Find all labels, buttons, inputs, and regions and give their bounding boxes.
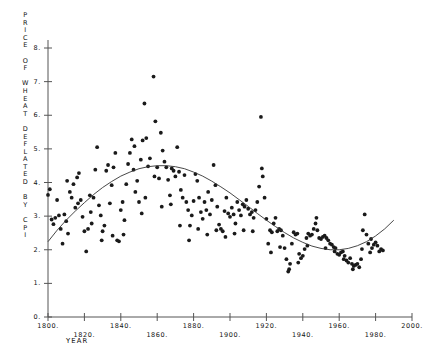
x-axis-tick-label: 1920. [253, 322, 279, 330]
data-point [143, 196, 147, 200]
data-point [295, 232, 299, 236]
data-point [126, 162, 130, 166]
data-point [201, 217, 205, 221]
data-point [62, 213, 66, 217]
data-point [172, 169, 176, 173]
data-point [139, 158, 143, 162]
data-point [122, 233, 126, 237]
y-axis-tick-label: 1. [27, 279, 41, 287]
data-point [130, 138, 134, 142]
data-point [65, 179, 69, 183]
data-point [212, 163, 216, 167]
data-point [104, 169, 108, 173]
data-point [376, 244, 380, 248]
data-point [196, 227, 200, 231]
data-point [215, 205, 219, 209]
data-point [346, 261, 350, 265]
data-point [251, 229, 255, 233]
data-point [224, 196, 228, 200]
x-axis-tick-label: 1960. [326, 322, 352, 330]
y-axis-tick-label: 0. [27, 313, 41, 321]
data-point [124, 182, 128, 186]
data-point [100, 238, 104, 242]
data-point [342, 257, 346, 261]
data-point [50, 218, 54, 222]
data-point [192, 199, 196, 203]
x-axis-tick-label: 1860. [144, 331, 170, 339]
data-point [123, 218, 127, 222]
data-point [270, 230, 274, 234]
data-point [365, 233, 369, 237]
data-point [296, 261, 300, 265]
data-point [137, 200, 141, 204]
data-point [110, 183, 114, 187]
data-point [357, 265, 361, 269]
data-point [148, 156, 152, 160]
data-point [301, 254, 305, 258]
data-point [315, 228, 319, 232]
data-point [119, 208, 123, 212]
x-axis-tick-label: 1980. [363, 331, 389, 339]
data-point [263, 196, 267, 200]
x-axis-tick-label: 1800. [35, 322, 61, 330]
data-point [243, 205, 247, 209]
data-point [153, 175, 157, 179]
data-point [315, 216, 319, 220]
data-point [81, 215, 85, 219]
data-point [168, 193, 172, 197]
data-point [76, 201, 80, 205]
data-point [86, 227, 90, 231]
data-point [178, 224, 182, 228]
x-axis-tick-label: 1940. [290, 331, 316, 339]
data-point [221, 229, 225, 233]
data-point [363, 213, 367, 217]
data-point [266, 242, 270, 246]
x-axis-tick-label: 1840. [108, 322, 134, 330]
data-point [274, 216, 278, 220]
data-point [188, 224, 192, 228]
data-point [174, 175, 178, 179]
data-point [226, 212, 230, 216]
chart-figure: 0.1.2.3.4.5.6.7.8. 1800.1820.1840.1860.1… [0, 0, 439, 360]
data-point [153, 119, 157, 123]
data-point [163, 160, 167, 164]
data-point [224, 235, 228, 239]
data-point [290, 242, 294, 246]
data-point [186, 208, 190, 212]
data-point [95, 145, 99, 149]
data-point [361, 228, 365, 232]
data-point [214, 228, 218, 232]
data-point [368, 251, 372, 255]
data-point [259, 115, 263, 119]
data-point [210, 198, 214, 202]
data-point [366, 242, 370, 246]
data-point [341, 250, 345, 254]
data-point [66, 232, 70, 236]
data-point [252, 216, 256, 220]
data-point [117, 239, 121, 243]
data-point [152, 75, 156, 79]
data-point [113, 151, 117, 155]
data-point [175, 145, 179, 149]
data-point [79, 198, 83, 202]
scatter-plot-canvas [0, 0, 439, 360]
data-point [133, 144, 137, 148]
data-point [278, 245, 282, 249]
data-point [68, 190, 72, 194]
data-point [160, 205, 164, 209]
data-point [199, 210, 203, 214]
data-point [140, 212, 144, 216]
data-point [84, 250, 88, 254]
y-axis-tick-label: 2. [27, 246, 41, 254]
data-point [356, 262, 360, 266]
data-point [312, 227, 316, 231]
y-axis-title: PRICE OF WHEAT DEFLATED BY CPI [20, 12, 31, 240]
data-point [181, 196, 185, 200]
data-point [206, 190, 210, 194]
data-point [297, 252, 301, 256]
data-point [233, 232, 237, 236]
data-point [374, 240, 378, 244]
axes [48, 40, 412, 317]
data-point [169, 202, 173, 206]
data-point [232, 213, 236, 217]
